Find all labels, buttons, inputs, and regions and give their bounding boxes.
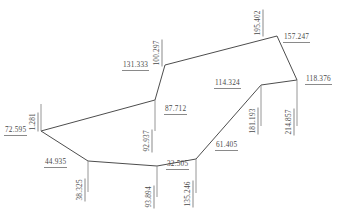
boundary-edge [88,161,157,166]
dimension-label: 32.505 [166,160,189,170]
dimension-label: 114.324 [214,79,241,89]
boundary-edge [165,36,277,65]
dimension-label: 1.281 [29,112,39,131]
dimension-label: 181.193 [249,107,259,134]
dimension-label: 61.405 [215,141,238,151]
dimension-label: 135.246 [184,180,194,207]
dimension-label: 44.935 [44,158,67,168]
dimension-label: 195.402 [254,9,264,36]
boundary-edge [155,65,165,100]
dimension-label: 87.712 [164,105,187,115]
dimension-label: 93.894 [145,185,155,208]
dimension-label: 157.247 [283,33,310,43]
dimension-label: 131.333 [122,61,149,71]
boundary-edges [41,36,297,166]
dimension-label: 100.297 [153,39,163,66]
dimension-label: 72.595 [4,126,27,136]
diagram-canvas: 72.5951.28144.93538.32587.71292.93793.89… [0,0,343,211]
boundary-edge [261,80,297,85]
dimension-label: 118.376 [305,75,332,85]
boundary-edge [41,100,155,131]
dimension-label: 38.325 [76,178,86,201]
boundary-edge [277,36,297,80]
dimension-label: 92.937 [143,129,153,152]
dimension-label: 214.857 [285,108,295,135]
